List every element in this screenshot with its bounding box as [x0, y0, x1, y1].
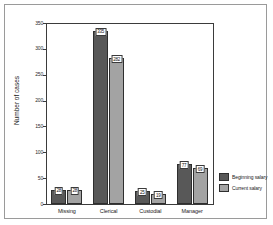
legend-label: Beginning salary [232, 174, 267, 180]
bar-value-label: 28 [55, 187, 64, 195]
bar: 69 [193, 168, 208, 204]
bar-value-label: 69 [196, 165, 205, 173]
bar-value-label: 335 [95, 28, 106, 36]
bar-group: 335282 [88, 23, 130, 204]
legend-item: Beginning salary [219, 173, 267, 181]
bar-group: 7769 [171, 23, 213, 204]
x-axis-line [46, 204, 214, 205]
y-axis-tick-label: 50 [23, 176, 43, 181]
plot-right-border [213, 23, 214, 205]
bar: 282 [109, 58, 124, 204]
plot-area: 282833528225197769 [46, 23, 213, 204]
bar: 25 [135, 191, 150, 204]
legend-item: Current salary [219, 184, 267, 192]
bar-group: 2828 [46, 23, 88, 204]
bar: 19 [151, 194, 166, 204]
bar: 28 [51, 190, 66, 204]
bar: 77 [177, 164, 192, 204]
bar-value-label: 28 [71, 187, 80, 195]
bar-group: 2519 [130, 23, 172, 204]
y-axis-tick-label: 150 [23, 124, 43, 129]
y-axis-tick-label: 200 [23, 98, 43, 103]
chart-frame: Number of cases 050100150200250300350 28… [4, 4, 267, 219]
legend-swatch [219, 173, 229, 181]
y-axis-tick-label: 100 [23, 150, 43, 155]
x-axis-category-label: Manager [167, 208, 217, 214]
y-axis-tick [43, 204, 47, 205]
bar: 335 [93, 31, 108, 204]
y-axis-tick-label: 300 [23, 46, 43, 51]
bar-value-label: 25 [138, 188, 147, 196]
y-axis-tick-label: 250 [23, 72, 43, 77]
bar-value-label: 282 [111, 55, 122, 63]
chart-legend: Beginning salaryCurrent salary [219, 173, 267, 195]
legend-label: Current salary [232, 185, 262, 191]
y-axis-tick-label: 0 [23, 202, 43, 207]
bar-value-label: 77 [180, 161, 189, 169]
bar-value-label: 19 [154, 191, 163, 199]
y-axis-tick-label: 350 [23, 21, 43, 26]
bar: 28 [67, 190, 82, 204]
legend-swatch [219, 184, 229, 192]
